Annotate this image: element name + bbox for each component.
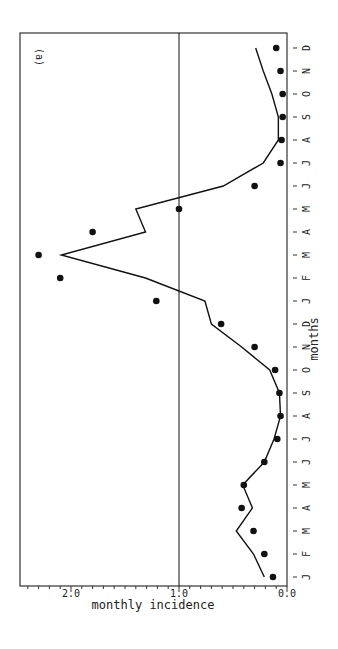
x-tick-label: A [301, 137, 312, 143]
x-tick-label: S [301, 390, 312, 396]
x-tick-label: O [301, 91, 312, 97]
data-point [153, 298, 160, 305]
x-axis-ticks: JFMAMJJASONDJFMAMJJASOND [293, 45, 312, 580]
data-point [261, 459, 268, 466]
data-point [279, 91, 286, 98]
x-tick-label: A [301, 505, 312, 511]
x-tick-label: J [301, 183, 312, 189]
x-tick-label: D [301, 45, 312, 51]
x-tick-label: M [301, 252, 312, 258]
x-tick-label: J [301, 436, 312, 442]
data-point [274, 436, 281, 443]
x-tick-label: J [301, 160, 312, 166]
x-tick-label: M [301, 206, 312, 212]
x-axis-label: months [307, 317, 321, 360]
incidence-chart: JFMAMJJASONDJFMAMJJASOND 0.01.02.0 (a) m… [0, 0, 338, 649]
data-point [279, 114, 286, 121]
data-point [273, 45, 280, 52]
data-point [241, 482, 248, 489]
data-point [89, 229, 96, 236]
x-tick-label: S [301, 114, 312, 120]
data-point [277, 68, 284, 75]
data-point [176, 206, 183, 213]
x-tick-label: F [301, 275, 312, 281]
x-tick-label: J [301, 574, 312, 580]
panel-label: (a) [34, 48, 45, 66]
x-tick-label: J [301, 459, 312, 465]
y-axis-label: monthly incidence [92, 598, 215, 612]
x-tick-label: M [301, 528, 312, 534]
data-point [276, 390, 283, 397]
y-tick-label: 0.0 [278, 588, 296, 599]
data-point [277, 413, 284, 420]
data-point [261, 551, 268, 558]
data-point [251, 183, 258, 190]
fitted-line [61, 48, 280, 577]
x-tick-label: A [301, 229, 312, 235]
x-tick-label: N [301, 68, 312, 74]
y-tick-label: 2.0 [62, 588, 80, 599]
x-tick-label: O [301, 367, 312, 373]
x-tick-label: M [301, 482, 312, 488]
data-point [250, 528, 257, 535]
plot-frame [20, 33, 287, 586]
data-point [278, 137, 285, 144]
data-point [57, 275, 64, 282]
x-tick-label: F [301, 551, 312, 557]
data-point [35, 252, 42, 259]
chart-rotated-container: JFMAMJJASONDJFMAMJJASOND 0.01.02.0 (a) m… [0, 0, 338, 649]
x-tick-label: A [301, 413, 312, 419]
data-point [272, 367, 279, 374]
data-point [270, 574, 277, 581]
x-tick-label: J [301, 298, 312, 304]
data-point [277, 160, 284, 167]
data-point [238, 505, 245, 512]
data-point [251, 344, 258, 351]
data-point [218, 321, 225, 328]
